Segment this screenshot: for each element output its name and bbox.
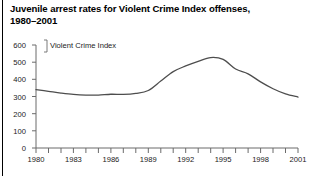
- y-tick-label-500: 500: [4, 58, 26, 67]
- y-tick-label-300: 300: [4, 93, 26, 102]
- y-tick-label-600: 600: [4, 41, 26, 50]
- x-tick-label-1992: 1992: [171, 155, 201, 164]
- title-line-1: Juvenile arrest rates for Violent Crime …: [10, 3, 250, 14]
- x-tick-label-1989: 1989: [133, 155, 163, 164]
- data-series-line: [36, 57, 298, 97]
- x-tick-label-1998: 1998: [246, 155, 276, 164]
- y-tick-label-400: 400: [4, 75, 26, 84]
- series-label: Violent Crime Index: [50, 41, 116, 50]
- figure-container: Juvenile arrest rates for Violent Crime …: [0, 0, 323, 176]
- title-line-2: 1980–2001: [10, 15, 57, 26]
- x-tick-label-1983: 1983: [58, 155, 88, 164]
- x-tick-label-1986: 1986: [96, 155, 126, 164]
- chart-plot-area: 0 100 200 300 400 500 600 1980 1983 1986…: [0, 36, 323, 176]
- series-label-bracket: [44, 40, 47, 52]
- x-tick-label-1995: 1995: [208, 155, 238, 164]
- x-tick-label-2001: 2001: [283, 155, 313, 164]
- y-axis-ticks: [32, 45, 36, 148]
- page-title: Juvenile arrest rates for Violent Crime …: [10, 3, 310, 28]
- x-axis-ticks: [36, 148, 298, 153]
- x-tick-label-1980: 1980: [21, 155, 51, 164]
- y-tick-label-200: 200: [4, 110, 26, 119]
- y-tick-label-0: 0: [4, 144, 26, 153]
- y-tick-label-100: 100: [4, 127, 26, 136]
